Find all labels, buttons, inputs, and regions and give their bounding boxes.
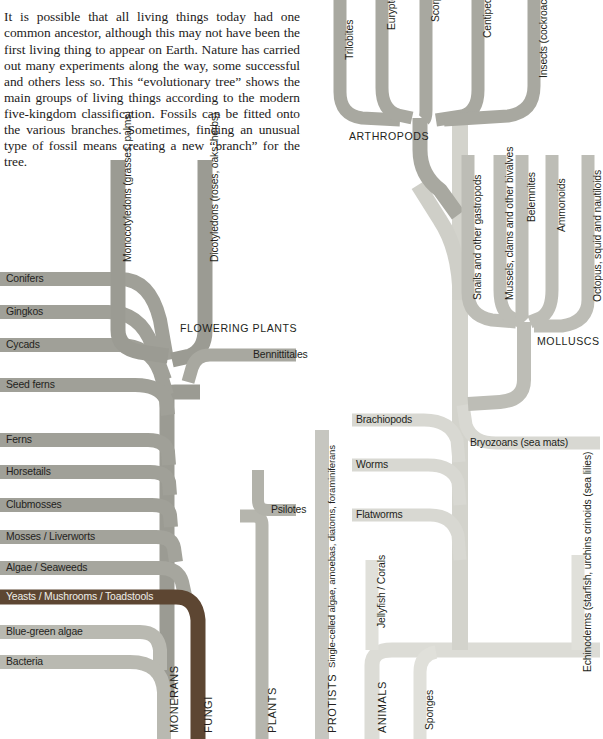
label-mosses-liverworts: Mosses / Liverworts [6,532,95,542]
label-arthropods: ARTHROPODS [349,131,429,142]
label-flatworms: Flatworms [356,510,403,520]
label-horsetails: Horsetails [6,467,51,477]
branch-flatworms [352,515,460,560]
kingdom-label-protists: PROTISTS [327,674,338,733]
label-eurypterids: Eurypterids [387,0,397,30]
label-insects: Insects (cockroaches, beetles) [539,0,549,78]
kingdom-label-monerans: MONERANS [169,665,180,733]
kingdom-label-plants: PLANTS [267,687,278,733]
label-echinoderms: Echinoderms (starfish, urchins crinoids … [583,452,593,672]
label-worms: Worms [356,460,388,470]
plants-branch-group [0,160,322,739]
molluscs-stem [468,322,524,404]
label-cycads: Cycads [6,340,40,350]
label-ferns: Ferns [6,435,32,445]
animals-root [372,650,600,739]
label-ammonoids: Ammonoids [557,178,567,232]
label-monocotyledons: Monocotyledons (grasses, palms) [123,111,133,262]
label-trilobites: Trilobites [345,20,355,60]
label-bryozoans: Bryozoans (sea mats) [470,438,568,448]
label-clubmosses: Clubmosses [6,500,62,510]
branch-scorpions-spiders [424,0,426,120]
label-molluscs: MOLLUSCS [537,336,600,347]
label-flowering-plants: FLOWERING PLANTS [180,323,297,334]
label-bacteria: Bacteria [6,657,43,667]
label-sponges: Sponges [425,690,435,730]
label-octopus-squid-nautiloids: Octopus, squid and nautiloids [593,170,603,302]
animals-branch-group [340,0,600,739]
label-jellyfish-corals: Jellyfish / Corals [377,555,387,628]
label-scorpions-spiders: Scorpions and spiders [431,0,441,22]
label-algae-seaweeds: Algae / Seaweeds [6,563,87,573]
label-gingkos: Gingkos [6,307,43,317]
tree-graphic [0,0,603,739]
label-conifers: Conifers [6,274,44,284]
label-protist-organisms: Single-celled algae, amoebas, diatoms, f… [327,445,337,668]
label-belemnites: Belemnites [527,172,537,222]
branch-bacteria [0,662,164,739]
label-seed-ferns: Seed ferns [6,380,55,390]
kingdom-label-fungi: FUNGI [203,696,214,733]
branch-belemnites [522,155,524,322]
label-gastropods: Snails and other gastropods [473,175,483,300]
label-dicotyledons: Dicotyledons (roses, oaks, herbs) [210,113,220,262]
label-blue-green-algae: Blue-green algae [6,627,83,637]
label-yeasts-mushrooms-toadstools: Yeasts / Mushrooms / Toadstools [6,592,153,602]
branch-brachiopods [352,420,459,462]
label-bennittitales: Bennittitales [253,350,308,360]
branch-worms [352,465,460,505]
label-brachiopods: Brachiopods [356,415,412,425]
plants-kingdom-stem [240,516,262,739]
evolutionary-tree-figure: It is possible that all living things to… [0,0,603,739]
kingdom-label-animals: ANIMALS [377,681,388,733]
branch-centipedes [436,0,478,120]
label-centipedes: Centipedes [483,0,493,38]
label-bivalves: Mussels, clams and other bivalves [505,147,515,300]
label-psilotes: Psilotes [271,505,306,515]
